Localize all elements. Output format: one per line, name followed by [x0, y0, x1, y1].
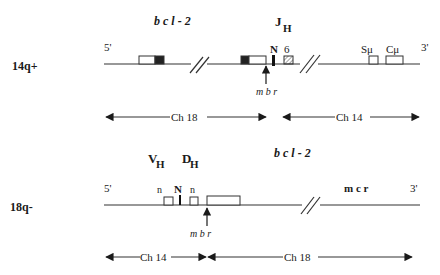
mbr-label: m b r — [190, 228, 211, 239]
cmu-region — [386, 56, 403, 64]
translocation-diagram: 14q+ 5' b c l - 2 J H m b r N 6 Sμ — [0, 0, 440, 275]
break-mark — [301, 197, 314, 214]
bcl2-exon3-utr — [207, 196, 240, 205]
n-right-label: n — [190, 184, 195, 195]
break-mark — [306, 55, 320, 73]
break-mark — [300, 55, 314, 73]
panel-14q-plus: 14q+ 5' b c l - 2 J H m b r N 6 Sμ — [12, 14, 429, 123]
panel-18q-minus: 18q- 5' V H D H b c l - 2 n N n m b r m … — [10, 146, 420, 263]
span-label-ch18: Ch 18 — [284, 251, 311, 263]
dh-segment — [190, 197, 198, 205]
jh-subscript: H — [283, 22, 292, 34]
vh-segment — [164, 197, 173, 205]
bcl2-exon3-coding — [241, 56, 249, 64]
n-label: N — [270, 43, 278, 55]
smu-region — [369, 56, 378, 64]
bcl2-exon-coding — [155, 56, 164, 64]
five-prime-label: 5' — [104, 41, 112, 53]
n-region-bar — [179, 195, 181, 205]
three-prime-label: 3' — [421, 41, 429, 53]
span-label-ch14: Ch 14 — [140, 251, 167, 263]
mbr-label: m b r — [256, 86, 277, 97]
mcr-label: m c r — [344, 182, 369, 194]
break-mark — [190, 57, 203, 73]
bcl2-gene-label: b c l - 2 — [274, 146, 311, 160]
dh-subscript: H — [190, 158, 199, 170]
n-mid-label: N — [174, 183, 182, 195]
chromosome-label-14q: 14q+ — [12, 59, 38, 73]
jh6-label: 6 — [284, 43, 290, 55]
cmu-label: Cμ — [386, 43, 399, 55]
span-label-ch14: Ch 14 — [336, 111, 363, 123]
bcl2-exon3-utr — [249, 56, 266, 64]
break-mark — [307, 197, 320, 214]
chromosome-label-18q: 18q- — [10, 200, 33, 214]
three-prime-label: 3' — [410, 182, 418, 194]
span-label-ch18: Ch 18 — [171, 111, 198, 123]
smu-label: Sμ — [361, 43, 373, 55]
five-prime-label: 5' — [104, 182, 112, 194]
n-left-label: n — [157, 184, 162, 195]
jh-label: J — [275, 14, 282, 29]
jh6-segment — [284, 56, 293, 64]
n-region-bar — [272, 55, 275, 66]
vh-subscript: H — [156, 158, 165, 170]
bcl2-gene-label: b c l - 2 — [154, 14, 191, 28]
break-mark — [196, 57, 209, 73]
bcl2-exon-open — [139, 56, 155, 64]
